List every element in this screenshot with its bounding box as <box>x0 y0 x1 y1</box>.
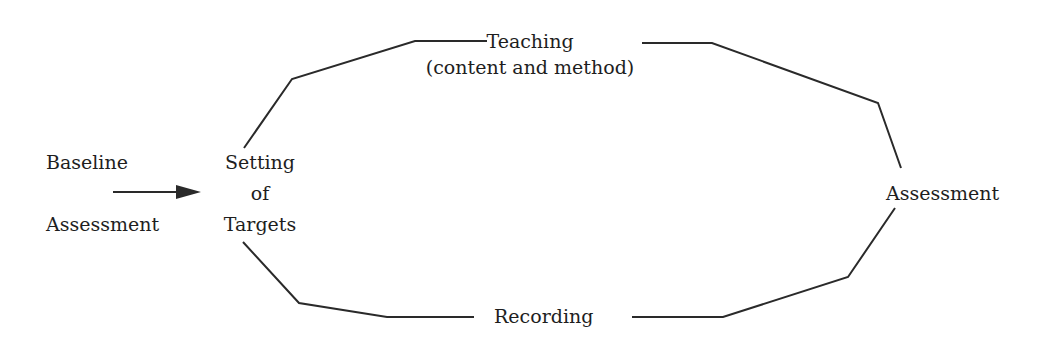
node-setting-of-targets: Setting of Targets <box>210 150 310 236</box>
node-setting-line1: Setting <box>210 150 310 174</box>
node-recording: Recording <box>494 304 593 328</box>
node-setting-line3: Targets <box>210 212 310 236</box>
node-teaching: Teaching (content and method) <box>380 29 680 79</box>
connector-recording-to-setting <box>243 242 474 317</box>
connector-teaching-to-assessment <box>642 43 901 168</box>
arrowhead-icon <box>176 185 201 199</box>
node-assessment: Assessment <box>886 181 999 205</box>
node-baseline-line2: Assessment <box>46 212 159 236</box>
diagram-canvas: Baseline Assessment Setting of Targets T… <box>0 0 1063 343</box>
node-baseline-line1: Baseline <box>46 150 128 174</box>
node-setting-line2: of <box>210 181 310 205</box>
connector-assessment-to-recording <box>632 208 895 317</box>
node-teaching-line1: Teaching <box>380 29 680 53</box>
node-teaching-line2: (content and method) <box>380 55 680 79</box>
arrow-baseline-to-setting <box>113 185 201 199</box>
